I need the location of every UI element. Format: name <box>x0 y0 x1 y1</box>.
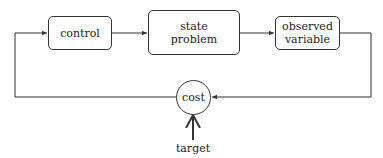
cost-label: cost <box>182 91 205 104</box>
state-problem-line2: problem <box>171 33 217 46</box>
observed-variable-line1: observed <box>282 20 333 33</box>
state-problem-line1: state <box>180 20 208 33</box>
target-label: target <box>163 142 223 155</box>
observed-variable-node: observed variable <box>275 16 340 50</box>
state-problem-node: state problem <box>148 10 240 55</box>
control-label: control <box>60 27 100 40</box>
observed-variable-line2: variable <box>285 33 330 46</box>
cost-node: cost <box>176 80 211 115</box>
control-node: control <box>48 16 112 50</box>
